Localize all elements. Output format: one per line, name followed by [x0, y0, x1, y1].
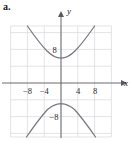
axes — [2, 11, 127, 138]
y-axis-label: y — [66, 6, 71, 16]
x-tick-label-neg8: −8 — [23, 86, 32, 96]
figure-container: a. — [0, 0, 134, 141]
x-tick-label-8: 8 — [93, 86, 97, 96]
x-tick-label-4: 4 — [76, 86, 81, 96]
axis-names: x y — [66, 6, 128, 88]
x-tick-label-neg4: −4 — [40, 86, 50, 96]
x-axis-label: x — [123, 78, 128, 88]
y-tick-label-neg8: −8 — [49, 112, 58, 122]
hyperbola-graph: −8 −4 4 8 8 −8 x y — [0, 0, 134, 141]
y-axis-arrowhead — [58, 11, 64, 17]
y-tick-label-8: 8 — [52, 45, 56, 55]
